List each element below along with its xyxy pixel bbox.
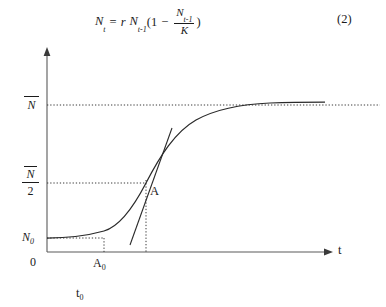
fraction-numerator: Nt-1 <box>174 7 194 22</box>
figure-page: Nt = r Nt-1 ( 1 − Nt-1 K ) (2) <box>0 0 386 307</box>
initial-time-subscript: 0 <box>79 293 83 302</box>
equation-block: Nt = r Nt-1 ( 1 − Nt-1 K ) (2) <box>0 6 386 40</box>
equation-number: (2) <box>337 12 352 27</box>
initial-point-subscript: 0 <box>102 263 106 272</box>
logistic-growth-figure: N N 2 N0 0 A A0 t0 t <box>0 40 386 307</box>
initial-population-symbol: N <box>22 230 30 244</box>
inflection-point-label: A <box>150 184 159 199</box>
initial-time-label: t0 <box>76 286 83 301</box>
x-axis-arrowhead <box>324 249 333 256</box>
figure-svg <box>0 40 386 307</box>
equation-rhs-term: Nt-1 <box>130 14 147 31</box>
rhs-symbol: N <box>130 14 138 28</box>
initial-population-label: N0 <box>22 230 34 245</box>
half-capacity-fraction-bar <box>22 182 39 183</box>
equation-lhs: Nt <box>95 14 106 31</box>
rhs-subscript: t-1 <box>138 25 147 34</box>
initial-population-subscript: 0 <box>30 237 34 246</box>
one-term: 1 <box>151 15 157 30</box>
fraction-denominator: K <box>179 25 190 37</box>
initial-point-label: A0 <box>93 256 106 271</box>
close-paren: ) <box>196 15 200 30</box>
logistic-equation: Nt = r Nt-1 ( 1 − Nt-1 K ) <box>95 8 201 37</box>
lhs-subscript: t <box>103 25 105 34</box>
y-axis-arrowhead <box>44 47 51 56</box>
rate-symbol: r <box>121 15 126 30</box>
half-capacity-label: N 2 <box>22 166 39 197</box>
carrying-capacity-symbol: N <box>24 96 39 113</box>
fraction-numerator-symbol: N <box>176 6 183 18</box>
carrying-capacity-label: N <box>24 96 39 113</box>
equals-sign: = <box>110 15 117 30</box>
fraction-numerator-subscript: t-1 <box>184 15 193 24</box>
half-capacity-numerator: N <box>24 166 36 180</box>
x-axis-label: t <box>338 243 341 258</box>
initial-point-symbol: A <box>93 256 102 270</box>
fraction: Nt-1 K <box>174 7 194 36</box>
origin-label: 0 <box>30 255 36 270</box>
half-capacity-denominator: 2 <box>28 184 34 197</box>
logistic-curve <box>47 102 325 238</box>
minus-sign: − <box>161 15 168 30</box>
